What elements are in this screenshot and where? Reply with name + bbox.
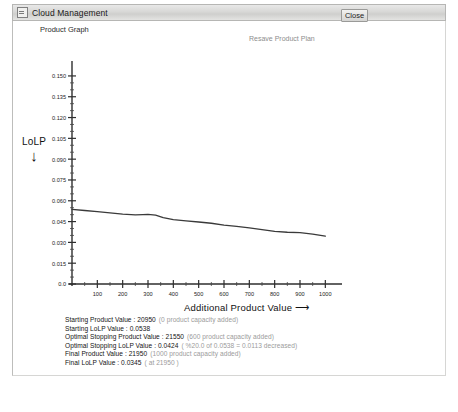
- x-axis-label: Additional Product Value ⟶: [184, 302, 309, 313]
- stat-note: (1000 product capacity added): [150, 350, 241, 357]
- x-tick-label: 800: [270, 291, 279, 297]
- stat-label: Final Product Value : 21950: [65, 350, 147, 357]
- y-tick-label: 0.105: [52, 136, 66, 142]
- window-title: Cloud Management: [32, 8, 108, 18]
- y-tick-label: 0.0: [58, 281, 66, 287]
- x-tick-label: 1000: [319, 291, 331, 297]
- stat-line: Final LoLP Value : 0.0345( at 21950 ): [65, 359, 395, 368]
- y-tick-label: 0.030: [52, 240, 66, 246]
- stat-label: Optimal Stopping LoLP Value : 0.0424: [65, 342, 178, 349]
- x-tick-label: 400: [169, 291, 178, 297]
- close-button[interactable]: Close: [341, 9, 368, 22]
- y-tick-label: 0.060: [52, 198, 66, 204]
- x-tick-label: 100: [93, 291, 102, 297]
- chart-series: [72, 209, 325, 236]
- window-app-icon: [17, 7, 28, 18]
- lolp-line-chart: 0.00.0150.0300.0450.0600.0750.0900.1050.…: [40, 44, 350, 309]
- stat-note: ( at 21950 ): [145, 359, 179, 366]
- stat-note: (600 product capacity added): [187, 333, 274, 340]
- stat-line: Starting Product Value : 20950(0 product…: [65, 316, 395, 325]
- stat-label: Starting Product Value : 20950: [65, 316, 156, 323]
- stat-line: Final Product Value : 21950(1000 product…: [65, 350, 395, 359]
- y-tick-label: 0.090: [52, 157, 66, 163]
- y-tick-label: 0.120: [52, 115, 66, 121]
- x-tick-label: 700: [245, 291, 254, 297]
- window-title-bar: Cloud Management: [12, 4, 446, 21]
- resave-product-plan-label: Resave Product Plan: [249, 35, 315, 42]
- series-line-0: [72, 209, 325, 236]
- y-tick-label: 0.150: [52, 73, 66, 79]
- x-tick-label: 500: [194, 291, 203, 297]
- application-window: Cloud Management Close Product Graph Res…: [12, 4, 446, 376]
- stat-label: Optimal Stopping Product Value : 21550: [65, 333, 184, 340]
- x-tick-label: 900: [295, 291, 304, 297]
- x-tick-label: 300: [143, 291, 152, 297]
- x-tick-label: 600: [219, 291, 228, 297]
- page-title: Product Graph: [40, 25, 89, 34]
- stat-note: ( %20.0 of 0.0538 = 0.0113 decreased): [181, 342, 297, 349]
- y-tick-label: 0.015: [52, 261, 66, 267]
- statistics-block: Starting Product Value : 20950(0 product…: [65, 316, 395, 368]
- y-axis: 0.00.0150.0300.0450.0600.0750.0900.1050.…: [52, 61, 76, 287]
- stat-note: (0 product capacity added): [159, 316, 238, 323]
- stat-label: Final LoLP Value : 0.0345: [65, 359, 142, 366]
- stat-line: Optimal Stopping Product Value : 21550(6…: [65, 333, 395, 342]
- y-tick-label: 0.075: [52, 177, 66, 183]
- stat-label: Starting LoLP Value : 0.0538: [65, 325, 150, 332]
- y-tick-label: 0.045: [52, 219, 66, 225]
- x-tick-label: 200: [118, 291, 127, 297]
- stat-line: Starting LoLP Value : 0.0538: [65, 325, 395, 334]
- product-graph-plot: 0.00.0150.0300.0450.0600.0750.0900.1050.…: [40, 44, 350, 309]
- y-tick-label: 0.135: [52, 94, 66, 100]
- stat-line: Optimal Stopping LoLP Value : 0.0424( %2…: [65, 342, 395, 351]
- x-axis: 1002003004005006007008009001000: [69, 280, 342, 297]
